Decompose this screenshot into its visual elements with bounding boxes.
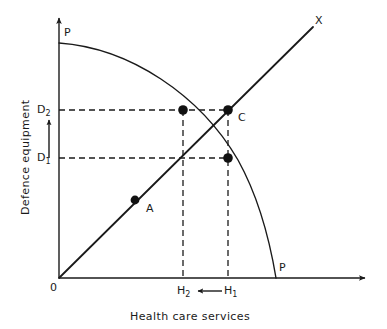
ox-ray — [59, 27, 313, 278]
y-axis-title: Defence equipment — [19, 100, 32, 216]
y-tick-label-d2: D2 — [37, 104, 51, 118]
ppf-figure: P P X A C 0 D2 D1 H2 H1 Defence equipmen… — [0, 0, 387, 329]
ppf-bottom-label: P — [279, 262, 286, 273]
x-tick-h2-sub: 2 — [185, 290, 190, 299]
y-tick-d1-sub: 1 — [45, 157, 50, 166]
x-axis-title: Health care services — [130, 310, 250, 323]
point-c-label: C — [238, 112, 246, 123]
y-tick-label-d1: D1 — [37, 152, 51, 166]
ppf-top-label: P — [64, 27, 71, 38]
x-tick-label-h1: H1 — [224, 285, 237, 299]
origin-label: 0 — [50, 282, 57, 293]
y-tick-d2-sub: 2 — [45, 109, 50, 118]
x-tick-label-h2: H2 — [177, 285, 190, 299]
point-a-marker — [131, 196, 140, 205]
point-h2-on-ppf-marker — [178, 105, 188, 115]
point-a-label: A — [146, 203, 154, 214]
point-c-marker — [223, 105, 233, 115]
ppf-curve — [59, 43, 276, 278]
point-h1-on-ppf-marker — [223, 153, 233, 163]
ox-ray-label: X — [315, 15, 323, 26]
ppf-plot-canvas — [0, 0, 387, 329]
x-tick-h1-sub: 1 — [232, 290, 237, 299]
